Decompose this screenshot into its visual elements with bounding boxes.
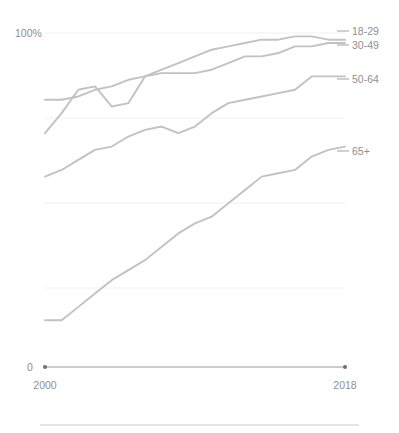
series-line-65-plus <box>45 147 345 321</box>
line-chart: 100% 0 18-29 30-49 50-64 65+ 2 <box>0 0 399 433</box>
x-axis-end-dot <box>343 365 347 369</box>
legend: 18-29 30-49 50-64 65+ <box>352 25 379 157</box>
x-axis-start-dot <box>43 365 47 369</box>
x-tick-label-end: 2018 <box>333 379 357 391</box>
legend-item-18-29[interactable]: 18-29 <box>352 25 379 37</box>
gridlines <box>45 33 345 288</box>
y-axis-zero-label: 0 <box>27 361 33 373</box>
legend-leader-lines <box>337 31 349 151</box>
chart-canvas: 100% 0 18-29 30-49 50-64 65+ 2 <box>0 0 399 433</box>
x-axis: 2000 2018 <box>33 365 357 391</box>
y-axis-top-label: 100% <box>15 27 42 39</box>
series-line-30-49 <box>45 43 345 100</box>
legend-item-30-49[interactable]: 30-49 <box>352 39 379 51</box>
x-tick-label-start: 2000 <box>33 379 57 391</box>
series-lines <box>45 36 345 320</box>
legend-item-50-64[interactable]: 50-64 <box>352 73 379 85</box>
legend-item-65-plus[interactable]: 65+ <box>352 145 370 157</box>
